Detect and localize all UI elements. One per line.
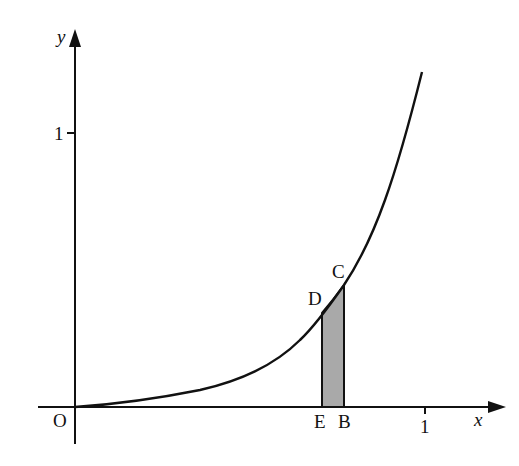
graph-diagram: y x O 1 1 E B D C [0, 0, 519, 466]
y-axis-label: y [55, 26, 66, 47]
curve [75, 72, 422, 407]
x-axis-label: x [473, 409, 483, 430]
x-tick-label-1: 1 [420, 416, 430, 437]
y-tick-label-1: 1 [54, 123, 64, 144]
y-axis-arrow-icon [69, 29, 81, 47]
point-label-b: B [338, 411, 351, 432]
shaded-region [322, 285, 344, 407]
point-label-d: D [308, 288, 322, 309]
origin-label: O [53, 410, 67, 431]
point-label-e: E [314, 411, 326, 432]
point-label-c: C [332, 261, 345, 282]
x-axis-arrow-icon [488, 401, 506, 413]
